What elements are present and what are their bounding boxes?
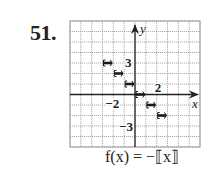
step-segment: [136, 92, 145, 98]
formula-rhs: −⟦x⟧: [146, 148, 179, 165]
step-segment: [158, 113, 167, 119]
step-segment: [104, 60, 113, 66]
tick-label: −2: [105, 96, 119, 111]
axes: xy: [70, 21, 199, 147]
tick-label: 3: [125, 55, 132, 70]
tick-label: 2: [155, 80, 162, 95]
formula-lhs: f(x): [105, 148, 129, 165]
step-segment: [114, 71, 123, 77]
step-segment: [147, 102, 156, 108]
tick-label: −3: [119, 119, 133, 134]
step-segment: [125, 81, 134, 87]
x-axis-label: x: [191, 96, 198, 111]
function-formula: f(x) = −⟦x⟧: [105, 147, 179, 166]
y-axis-label: y: [138, 21, 146, 36]
formula-eq: =: [133, 148, 142, 165]
